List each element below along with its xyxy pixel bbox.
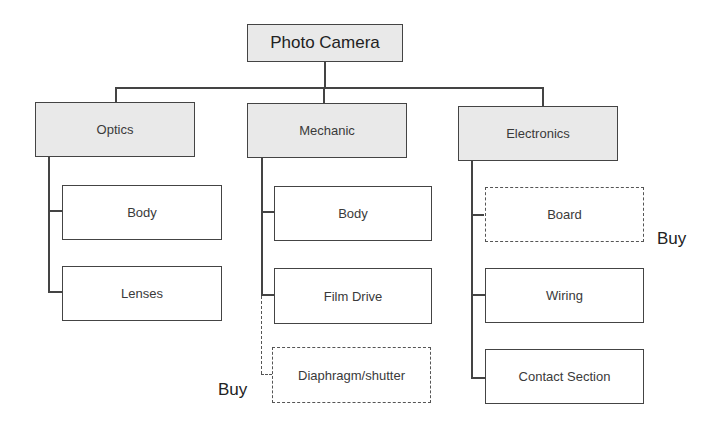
node-group-electronics: Electronics (458, 106, 618, 161)
node-electronics-wiring: Wiring (485, 268, 644, 323)
electronics-branch-wiring (471, 294, 485, 296)
mechanic-branch-film-drive (261, 294, 275, 296)
electronics-spine (471, 160, 473, 378)
node-mechanic-body: Body (274, 186, 432, 241)
node-electronics-wiring-label: Wiring (546, 288, 583, 303)
node-group-mechanic-label: Mechanic (299, 123, 355, 138)
node-group-optics: Optics (35, 102, 195, 157)
node-electronics-board-label: Board (547, 207, 582, 222)
node-mechanic-film-drive: Film Drive (274, 268, 432, 324)
node-mechanic-diaphragm-shutter: Diaphragm/shutter (272, 347, 431, 403)
node-group-mechanic: Mechanic (247, 103, 407, 158)
node-mechanic-body-label: Body (338, 206, 368, 221)
root-stem (324, 61, 326, 88)
optics-spine (48, 157, 50, 292)
mechanic-spine (261, 157, 263, 295)
electronics-branch-board (471, 214, 484, 216)
node-group-electronics-label: Electronics (506, 126, 570, 141)
node-mechanic-diaphragm-shutter-label: Diaphragm/shutter (298, 368, 405, 383)
electronics-branch-contact (471, 377, 485, 379)
top-horizontal-connector (115, 87, 543, 89)
optics-branch-body (48, 210, 63, 212)
mechanic-spine-dashed (261, 296, 262, 374)
node-root-label: Photo Camera (270, 33, 380, 53)
node-electronics-contact-section: Contact Section (485, 349, 644, 404)
node-root: Photo Camera (247, 24, 403, 62)
node-optics-body-label: Body (127, 205, 157, 220)
mechanic-branch-diaphragm (261, 374, 272, 375)
node-group-optics-label: Optics (97, 122, 134, 137)
mechanic-branch-body (261, 211, 275, 213)
annotation-buy-mechanic: Buy (218, 380, 247, 400)
node-mechanic-film-drive-label: Film Drive (324, 289, 383, 304)
annotation-buy-electronics: Buy (657, 229, 686, 249)
node-electronics-contact-section-label: Contact Section (519, 369, 611, 384)
node-optics-body: Body (62, 185, 222, 240)
node-optics-lenses-label: Lenses (121, 286, 163, 301)
electronics-drop (542, 87, 544, 108)
node-electronics-board: Board (485, 187, 644, 242)
node-optics-lenses: Lenses (62, 266, 222, 321)
optics-branch-lenses (48, 291, 63, 293)
